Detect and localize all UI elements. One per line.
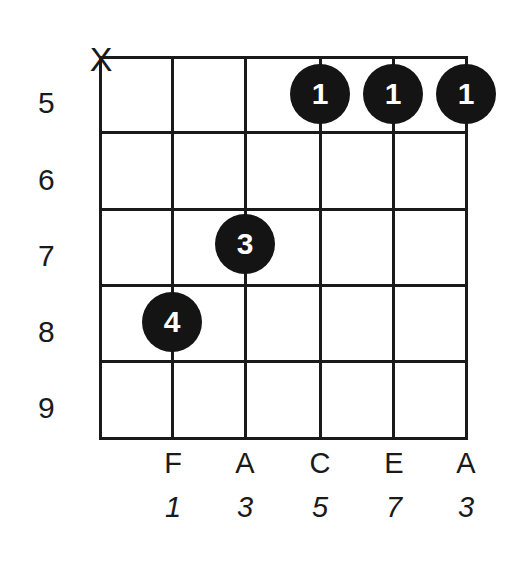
interval-label-string6: 3	[446, 493, 486, 522]
interval-label-string4: 5	[300, 493, 340, 522]
finger-dot-string6-fret5: 1	[436, 64, 496, 124]
interval-label-string2: 1	[153, 493, 193, 522]
fret-number-8: 8	[38, 317, 78, 347]
fret-number-7: 7	[38, 241, 78, 271]
note-label-string4: C	[300, 449, 340, 478]
note-label-string5: E	[374, 449, 414, 478]
string-line-2	[171, 56, 174, 440]
finger-dot-string4-fret5: 1	[290, 64, 350, 124]
note-label-string3: A	[225, 449, 265, 478]
note-label-string2: F	[153, 449, 193, 478]
note-label-string6: A	[446, 449, 486, 478]
interval-label-string5: 7	[374, 493, 414, 522]
muted-string-x-icon: X	[86, 42, 116, 76]
interval-label-string3: 3	[225, 493, 265, 522]
finger-dot-string2-fret8: 4	[142, 292, 202, 352]
fret-line-2	[99, 208, 468, 211]
string-line-1	[99, 56, 102, 440]
fret-line-3	[99, 284, 468, 287]
fret-line-4	[99, 360, 468, 363]
finger-dot-string5-fret5: 1	[363, 64, 423, 124]
finger-dot-string3-fret7: 3	[215, 214, 275, 274]
fret-number-5: 5	[38, 88, 78, 118]
fret-number-9: 9	[38, 393, 78, 423]
chord-diagram: 5 6 7 8 9 X 1 1 1 3 4 F A C E A 1 3 5 7 …	[0, 0, 518, 564]
fret-line-top	[99, 56, 468, 59]
fret-line-bottom	[99, 437, 468, 440]
fret-number-6: 6	[38, 165, 78, 195]
fret-line-1	[99, 131, 468, 134]
